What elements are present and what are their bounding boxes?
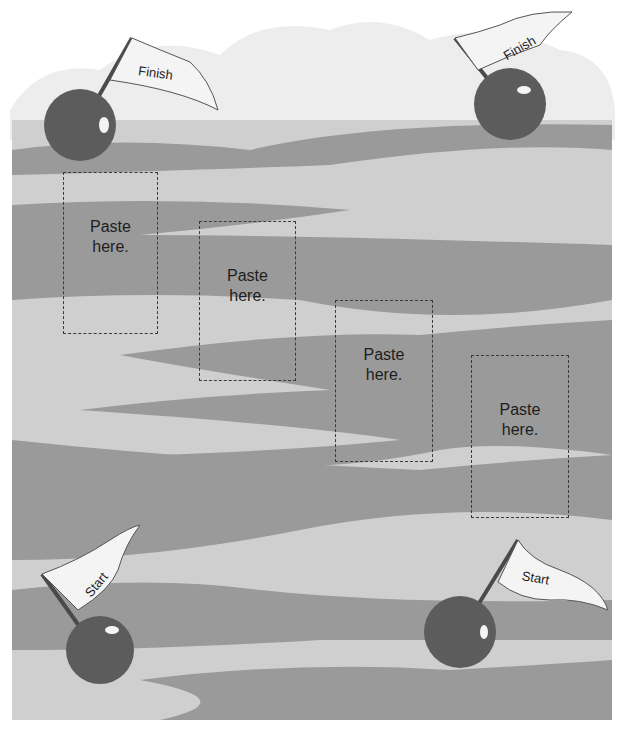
paste-label: Paste here. (480, 400, 560, 440)
paste-label: Paste here. (71, 217, 151, 257)
paste-target-2[interactable]: Paste here. (199, 221, 296, 381)
paste-target-1[interactable]: Paste here. (63, 172, 158, 334)
paste-label: Paste here. (208, 266, 288, 306)
paste-target-3[interactable]: Paste here. (335, 300, 433, 462)
paste-label: Paste here. (344, 345, 424, 385)
paste-target-4[interactable]: Paste here. (471, 355, 569, 518)
